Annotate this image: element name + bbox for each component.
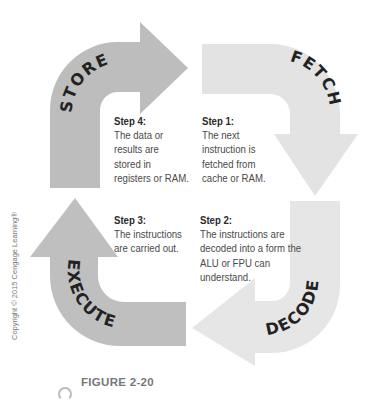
step-1-description: Step 1: The next instruction is fetched … xyxy=(202,114,266,185)
step-3-title: Step 3: xyxy=(114,213,182,227)
step-2-text: The instructions are decoded into a form… xyxy=(200,227,301,284)
step-1-text: The next instruction is fetched from cac… xyxy=(202,128,266,185)
figure-marker-icon xyxy=(58,387,72,401)
copyright-notice: Copyright © 2015 Cengage Learning® xyxy=(10,212,19,340)
step-2-description: Step 2: The instructions are decoded int… xyxy=(200,213,301,284)
step-4-text: The data or results are stored in regist… xyxy=(114,128,189,185)
step-4-description: Step 4: The data or results are stored i… xyxy=(114,114,189,185)
step-4-title: Step 4: xyxy=(114,114,189,128)
step-2-title: Step 2: xyxy=(200,213,301,227)
figure-label: FIGURE 2-20 xyxy=(81,376,154,388)
step-3-description: Step 3: The instructions are carried out… xyxy=(114,213,182,256)
step-3-text: The instructions are carried out. xyxy=(114,227,182,255)
step-1-title: Step 1: xyxy=(202,114,266,128)
